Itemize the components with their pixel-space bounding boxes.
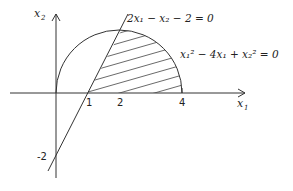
svg-text:x: x xyxy=(237,97,244,110)
y-axis-label: x 2 xyxy=(34,7,46,22)
x-axis-label: x 1 xyxy=(237,97,248,112)
x-tick-1: 1 xyxy=(86,97,92,108)
y-tick-neg2: -2 xyxy=(37,151,47,162)
feasible-region-diagram: 1 2 4 -2 x 1 x 2 2x₁ − x₂ − 2 = 0 x₁² − … xyxy=(0,0,293,191)
x-tick-2: 2 xyxy=(117,97,123,108)
line-equation-label: 2x₁ − x₂ − 2 = 0 xyxy=(126,12,214,24)
svg-text:1: 1 xyxy=(244,104,248,112)
svg-text:x: x xyxy=(34,7,41,20)
x-axis xyxy=(10,89,245,97)
y-axis xyxy=(52,14,60,178)
x-tick-4: 4 xyxy=(179,97,185,108)
svg-text:2: 2 xyxy=(40,14,46,22)
circle-equation-label: x₁² − 4x₁ + x₂² = 0 xyxy=(180,48,279,60)
